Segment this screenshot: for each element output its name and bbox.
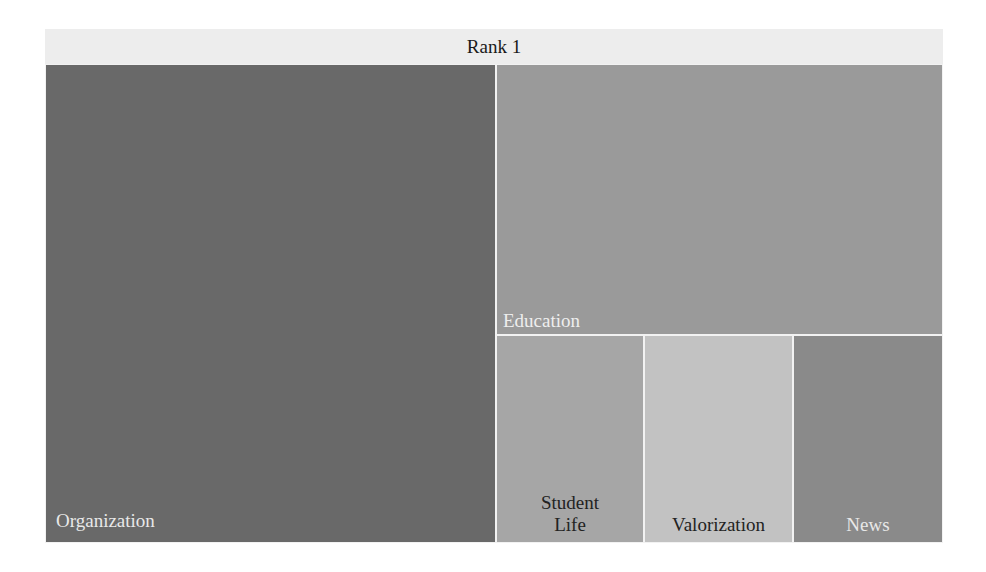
treemap-cell-news[interactable]: News (793, 335, 943, 543)
cell-label: Student Life (497, 492, 643, 536)
cell-label-line2: Life (554, 514, 586, 535)
cell-label: News (794, 514, 942, 536)
cell-label: Organization (56, 510, 155, 532)
chart-title: Rank 1 (45, 36, 943, 58)
treemap-cell-valorization[interactable]: Valorization (644, 335, 793, 543)
cell-label-line1: Student (541, 492, 599, 513)
treemap-header[interactable]: Rank 1 (45, 29, 943, 65)
cell-label: Education (503, 310, 580, 332)
treemap-cell-organization[interactable]: Organization (45, 64, 496, 543)
treemap-cell-student-life[interactable]: Student Life (496, 335, 644, 543)
treemap-chart: Rank 1 Organization Education Student Li… (45, 29, 943, 543)
treemap-cell-education[interactable]: Education (496, 64, 943, 335)
cell-label: Valorization (645, 514, 792, 536)
